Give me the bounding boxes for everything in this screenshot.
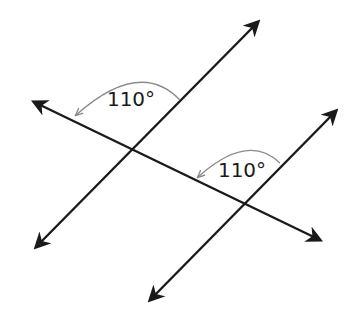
- parallel-line-2: [150, 111, 336, 300]
- parallel-line-1: [36, 22, 258, 247]
- diagram-canvas: 110° 110°: [0, 0, 346, 314]
- angle-diagram: 110° 110°: [0, 0, 346, 314]
- angle-label-2: 110°: [218, 158, 266, 182]
- angle-label-1: 110°: [107, 87, 155, 111]
